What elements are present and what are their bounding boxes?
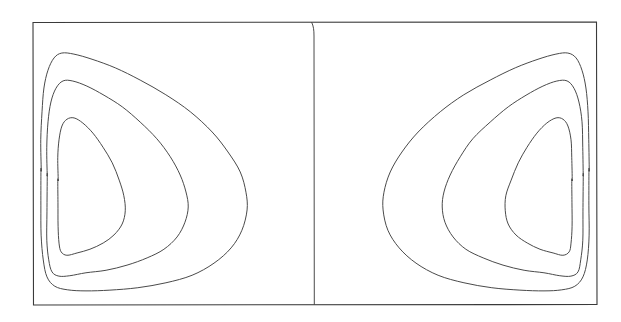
figure-root xyxy=(0,0,621,322)
contour-plot-svg xyxy=(0,0,621,322)
plot-background xyxy=(0,0,621,322)
